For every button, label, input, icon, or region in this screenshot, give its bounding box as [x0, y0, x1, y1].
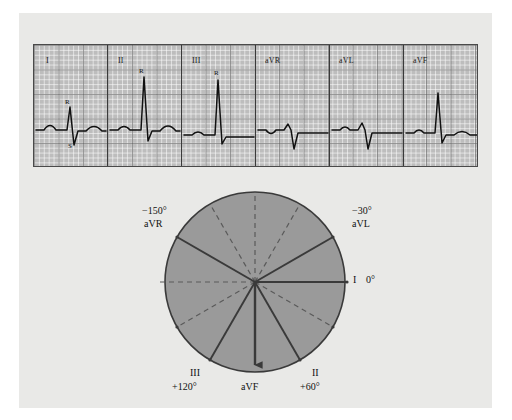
- ecg-traces: [34, 45, 478, 167]
- hexaxial-label-I-lead: I: [353, 274, 356, 286]
- hexaxial-label-aVR-lead: aVR: [144, 218, 162, 230]
- hexaxial-label-I-degrees: 0°: [366, 274, 375, 286]
- hexaxial-label-II-degrees: +60°: [300, 381, 320, 393]
- hexaxial-reference-diagram: −150° aVR −30° aVL I 0° III +120° II +60…: [140, 185, 390, 405]
- ecg-strip: I II III aVR aVL aVF R S R R: [33, 44, 478, 167]
- hexaxial-label-aVL-lead: aVL: [352, 218, 370, 230]
- hexaxial-label-III-lead: III: [190, 367, 200, 379]
- figure-root: I II III aVR aVL aVF R S R R: [0, 0, 512, 420]
- hexaxial-label-aVR-degrees: −150°: [142, 205, 167, 217]
- hexaxial-label-II-lead: II: [312, 367, 319, 379]
- hexaxial-label-aVL-degrees: −30°: [352, 205, 372, 217]
- hexaxial-label-aVF-lead: aVF: [241, 381, 258, 393]
- hexaxial-label-III-degrees: +120°: [172, 381, 197, 393]
